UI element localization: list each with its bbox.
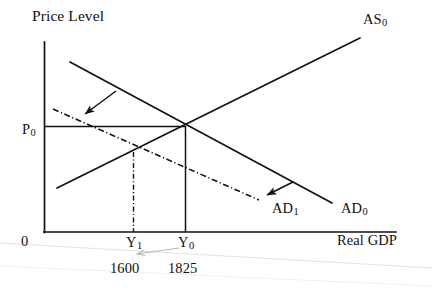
curve-ad1 [53, 109, 259, 200]
curve-label-ad1-sub: 1 [293, 206, 298, 217]
curve-label-as0: AS0 [363, 12, 387, 27]
curve-label-ad0: AD0 [341, 201, 367, 216]
y-axis-title: Price Level [32, 8, 104, 24]
curve-label-ad0-sub: 0 [362, 206, 367, 217]
diagram-canvas [0, 0, 432, 292]
x-axis-tick-y0-base: Y [178, 234, 189, 250]
curve-label-ad0-base: AD [341, 200, 362, 216]
ad-as-diagram: Price Level AS0 AD0 AD1 P0 0 Y1 Y0 Real … [0, 0, 432, 292]
x-axis-tick-y1-sub: 1 [137, 240, 142, 251]
shift-arrow-lower-icon [267, 182, 293, 195]
shift-arrow-upper-icon [85, 91, 116, 114]
x-value-y1: 1600 [110, 261, 139, 276]
curve-label-ad1-base: AD [272, 200, 293, 216]
origin-label: 0 [21, 234, 28, 249]
x-axis-tick-y0: Y0 [178, 235, 194, 250]
y-axis-tick-p0: P0 [22, 122, 36, 137]
y-axis-tick-p0-sub: 0 [30, 127, 35, 138]
curve-as0 [57, 38, 360, 188]
x-axis-tick-y1: Y1 [126, 235, 142, 250]
curve-label-ad1: AD1 [272, 201, 298, 216]
x-axis-tick-y0-sub: 0 [189, 240, 194, 251]
y-axis-tick-p0-base: P [22, 121, 30, 137]
x-axis-title: Real GDP [337, 233, 397, 248]
curve-label-as0-sub: 0 [382, 17, 387, 28]
x-value-y0: 1825 [168, 261, 197, 276]
scan-artifact [0, 243, 432, 286]
curve-label-as0-base: AS [363, 11, 382, 27]
x-axis-tick-y1-base: Y [126, 234, 137, 250]
